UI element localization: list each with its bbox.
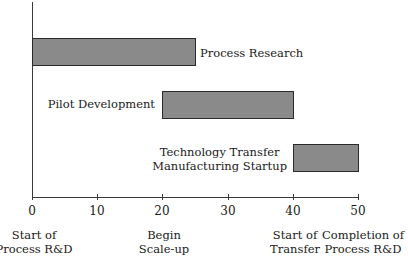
- x-tick-label: 50: [343, 204, 373, 218]
- bar-label-technology-transfer: Technology Transfer Manufacturing Startu…: [152, 145, 287, 173]
- x-tick-label: 30: [213, 204, 243, 218]
- milestone-start-process-rd: Start of Process R&D: [0, 228, 79, 256]
- bar-label-pilot-development: Pilot Development: [48, 97, 155, 111]
- bar-pilot-development: [162, 91, 294, 119]
- x-tick-40: [293, 194, 294, 200]
- milestone-line: Process R&D: [318, 242, 408, 256]
- y-axis: [32, 2, 33, 198]
- bar-label-process-research: Process Research: [200, 46, 303, 60]
- x-tick-10: [97, 194, 98, 200]
- bar-process-research: [32, 38, 196, 66]
- x-tick-20: [162, 194, 163, 200]
- milestone-line: Scale-up: [119, 242, 209, 256]
- milestone-line: Begin: [119, 228, 209, 242]
- x-tick-50: [358, 194, 359, 200]
- milestone-line: Process R&D: [0, 242, 79, 256]
- milestone-line: Completion of: [318, 228, 408, 242]
- milestone-completion-process-rd: Completion of Process R&D: [318, 228, 408, 256]
- bar-label-line: Technology Transfer: [152, 145, 287, 159]
- bar-technology-transfer: [293, 144, 359, 172]
- x-tick-label: 20: [147, 204, 177, 218]
- x-axis: [32, 197, 359, 198]
- x-tick-label: 40: [278, 204, 308, 218]
- x-tick-label: 10: [82, 204, 112, 218]
- x-tick-0: [32, 194, 33, 200]
- milestone-begin-scale-up: Begin Scale-up: [119, 228, 209, 256]
- bar-label-line: Manufacturing Startup: [152, 159, 287, 173]
- milestone-line: Start of: [0, 228, 79, 242]
- x-tick-label: 0: [17, 204, 47, 218]
- x-tick-30: [228, 194, 229, 200]
